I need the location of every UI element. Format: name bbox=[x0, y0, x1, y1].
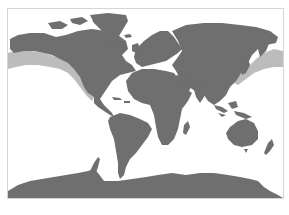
tasmania bbox=[244, 149, 248, 153]
southeast-asia-islands bbox=[214, 101, 252, 119]
continent-south-america bbox=[108, 113, 152, 179]
new-zealand bbox=[264, 139, 274, 155]
continent-antarctica bbox=[8, 169, 283, 198]
caribbean-islands bbox=[112, 97, 130, 103]
madagascar bbox=[183, 121, 190, 135]
continent-australia bbox=[226, 119, 258, 147]
world-map-svg bbox=[8, 9, 283, 198]
iceland bbox=[124, 34, 132, 38]
continent-central-america bbox=[94, 97, 114, 117]
antarctic-peninsula bbox=[90, 157, 100, 173]
world-map bbox=[7, 8, 284, 199]
